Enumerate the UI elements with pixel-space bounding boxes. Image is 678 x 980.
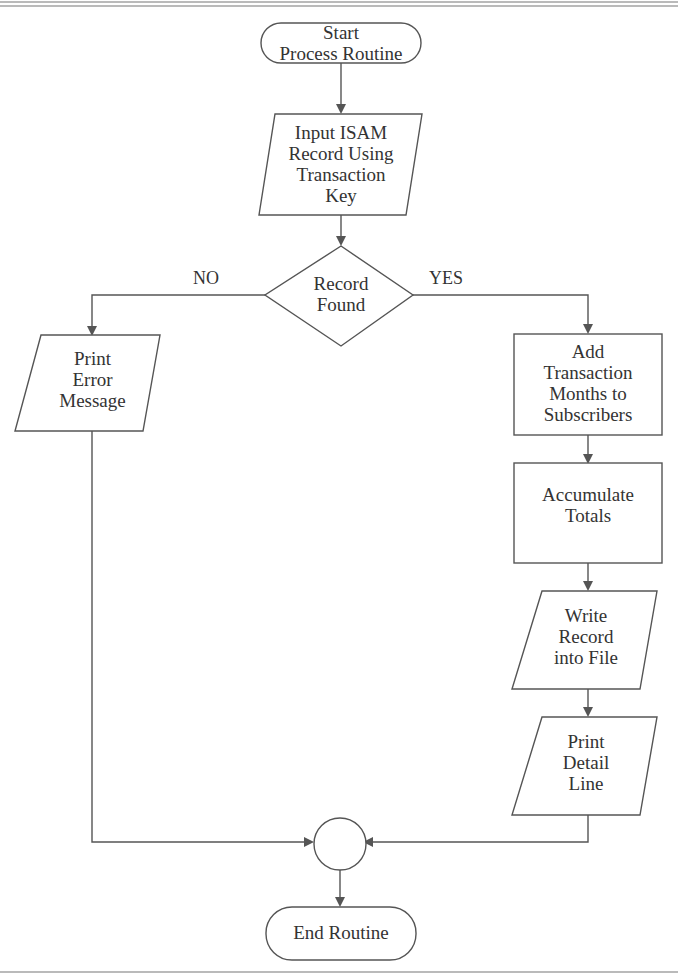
merge-connector-circle	[314, 818, 366, 870]
connector-no-branch	[92, 295, 265, 330]
arrowhead-icon	[304, 837, 314, 847]
accumulate-totals-label: Accumulate Totals	[514, 484, 662, 526]
arrowhead-icon	[583, 707, 593, 717]
arrowhead-icon	[336, 104, 346, 114]
arrowhead-icon	[336, 236, 346, 246]
input-record-label: Input ISAM Record Using Transaction Key	[262, 122, 420, 206]
arrowhead-icon	[583, 581, 593, 591]
no-branch-label: NO	[193, 268, 219, 289]
flowchart-canvas: Start Process Routine Input ISAM Record …	[0, 0, 678, 980]
start-terminator-label: Start Process Routine	[261, 22, 421, 64]
end-terminator-label: End Routine	[266, 922, 416, 943]
write-record-label: Write Record into File	[528, 605, 644, 668]
connector-detail-merge	[368, 815, 588, 842]
arrowhead-icon	[335, 897, 345, 907]
print-error-label: Print Error Message	[35, 348, 150, 411]
connector-yes-branch	[413, 295, 588, 328]
arrowhead-icon	[583, 324, 593, 334]
print-detail-label: Print Detail Line	[528, 731, 644, 794]
yes-branch-label: YES	[429, 268, 463, 289]
decision-label: Record Found	[290, 273, 392, 315]
add-months-label: Add Transaction Months to Subscribers	[514, 341, 662, 425]
connector-error-merge	[92, 431, 308, 842]
